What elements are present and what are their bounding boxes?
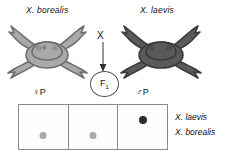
down-arrow-icon — [96, 42, 110, 72]
gel-lane-3 — [118, 105, 167, 149]
species-label-borealis: X. borealis — [26, 5, 68, 15]
f1-generation-circle: F1 — [90, 71, 119, 97]
band-legend-borealis: X. borealis — [175, 127, 215, 137]
cross-diagram-figure: X. borealis X. laevis — [0, 0, 229, 159]
gel-box — [18, 104, 168, 150]
frog-male-laevis — [116, 23, 204, 83]
species-label-laevis: X. laevis — [140, 5, 174, 15]
cross-symbol: X — [97, 30, 104, 41]
lane-header-female-parent: ♀P — [33, 87, 46, 97]
frog-female-borealis — [5, 23, 89, 83]
gel-band-borealis-lane1 — [40, 132, 47, 139]
gel-lane-1 — [19, 105, 69, 149]
gel-band-borealis-lane2 — [90, 132, 97, 139]
gel-band-laevis-lane3 — [139, 116, 147, 124]
lane-header-male-parent: ♂P — [136, 87, 149, 97]
f1-label: F1 — [100, 79, 109, 90]
gel-lane-2 — [69, 105, 119, 149]
f1-subscript: 1 — [106, 83, 109, 89]
band-legend-laevis: X. laevis — [175, 112, 207, 122]
